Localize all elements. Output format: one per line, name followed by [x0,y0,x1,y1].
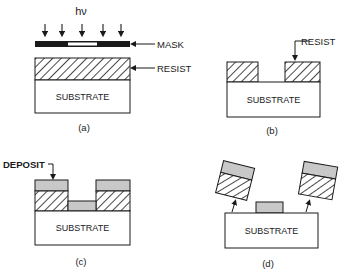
panel-d: SUBSTRATE (d) [216,161,338,269]
substrate-label: SUBSTRATE [56,92,109,102]
panel-c: DEPOSIT SUBSTRATE (c) [3,159,130,267]
caption-d: (d) [262,258,274,269]
radiation-label: hν [75,5,87,17]
resist-block-left [35,191,68,211]
resist-block-right [96,191,130,211]
substrate-label: SUBSTRATE [247,95,300,105]
panel-b: SUBSTRATE RESIST (b) [227,36,336,136]
lifted-block-left [216,161,255,201]
deposit-on-substrate [68,201,96,211]
resist-label: RESIST [157,63,192,74]
deposit-remaining [256,202,283,213]
liftoff-arrow-left [232,202,235,212]
resist-label: RESIST [301,36,336,47]
substrate-label: SUBSTRATE [245,226,298,236]
resist-layer [35,58,130,80]
panel-a: hν MASK RESIST SUBSTRATE (a) [35,5,192,133]
deposit-on-resist-right [96,180,130,191]
lifted-block-right [298,161,337,199]
substrate-label: SUBSTRATE [56,223,109,233]
lithography-diagram: hν MASK RESIST SUBSTRATE (a) SUBSTRATE R… [0,0,347,279]
mask [35,41,130,47]
light-arrows [45,24,121,34]
deposit-label: DEPOSIT [3,159,45,170]
caption-c: (c) [75,256,86,267]
resist-block-right [285,62,320,82]
deposit-on-resist-left [35,180,68,191]
caption-a: (a) [78,122,90,133]
mask-label: MASK [157,39,185,50]
liftoff-arrow-right [306,202,309,212]
deposit-pointer [48,164,53,177]
resist-block-left [227,62,258,82]
caption-b: (b) [266,125,278,136]
